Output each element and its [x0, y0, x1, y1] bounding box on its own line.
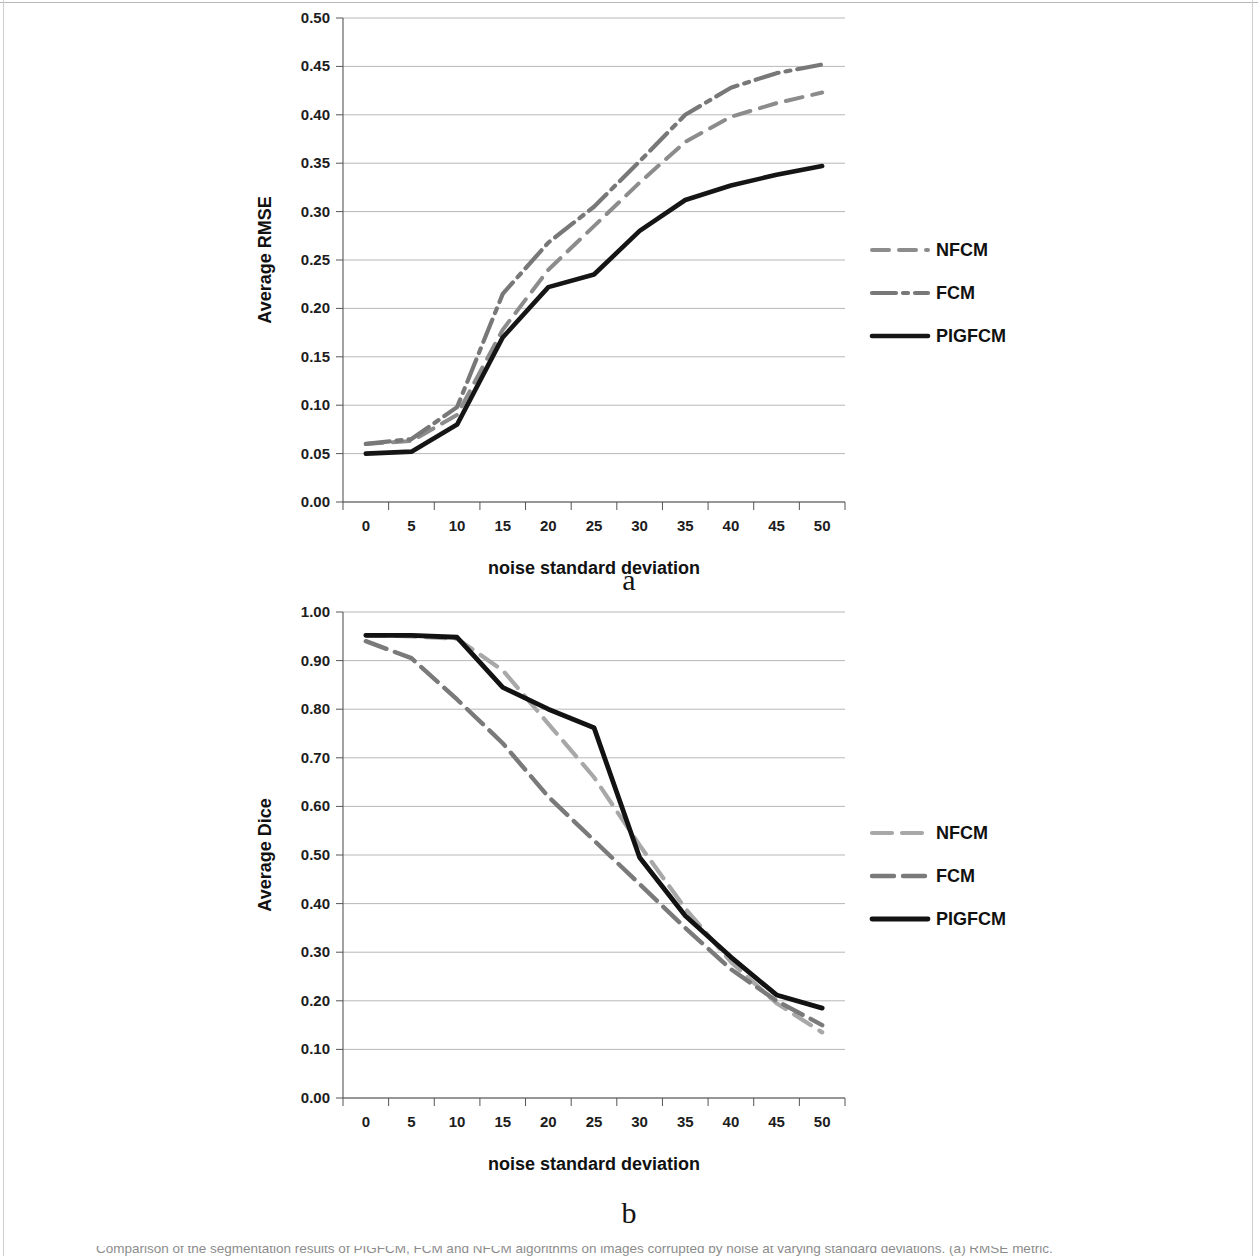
- x-tick-label: 35: [677, 517, 694, 534]
- y-tick-label: 0.45: [301, 57, 330, 74]
- y-tick-label: 0.40: [301, 106, 330, 123]
- x-tick-label: 10: [449, 517, 466, 534]
- y-tick-label: 0.10: [301, 1040, 330, 1057]
- y-tick-label: 0.00: [301, 1089, 330, 1106]
- x-tick-label: 40: [723, 1113, 740, 1130]
- y-tick-label: 0.70: [301, 749, 330, 766]
- legend-label-fcm: FCM: [936, 283, 975, 303]
- y-tick-label: 0.40: [301, 895, 330, 912]
- legend-label-nfcm: NFCM: [936, 240, 988, 260]
- y-tick-label: 1.00: [301, 603, 330, 620]
- series-line-fcm: [366, 641, 822, 1025]
- y-tick-label: 0.30: [301, 203, 330, 220]
- y-tick-label: 0.20: [301, 992, 330, 1009]
- figure-caption-strip: Comparison of the segmentation results o…: [0, 1246, 1258, 1256]
- legend-label-pigfcm: PIGFCM: [936, 909, 1006, 929]
- x-tick-label: 35: [677, 1113, 694, 1130]
- x-tick-label: 5: [407, 1113, 415, 1130]
- series-line-nfcm: [366, 93, 822, 444]
- x-tick-label: 30: [631, 1113, 648, 1130]
- x-tick-label: 0: [362, 1113, 370, 1130]
- dice-line-chart: 0.000.100.200.300.400.500.600.700.800.90…: [0, 590, 1258, 1210]
- y-tick-label: 0.10: [301, 396, 330, 413]
- x-tick-label: 30: [631, 517, 648, 534]
- y-tick-label: 0.60: [301, 797, 330, 814]
- x-tick-label: 15: [494, 517, 511, 534]
- chart-panel-a: 0.000.050.100.150.200.250.300.350.400.45…: [0, 0, 1258, 600]
- legend-label-nfcm: NFCM: [936, 823, 988, 843]
- x-tick-label: 5: [407, 517, 415, 534]
- series-line-nfcm: [366, 635, 822, 1032]
- x-tick-label: 0: [362, 517, 370, 534]
- legend-label-fcm: FCM: [936, 866, 975, 886]
- y-tick-label: 0.20: [301, 299, 330, 316]
- legend-label-pigfcm: PIGFCM: [936, 326, 1006, 346]
- y-tick-label: 0.05: [301, 445, 330, 462]
- y-tick-label: 0.35: [301, 154, 330, 171]
- x-tick-label: 50: [814, 517, 831, 534]
- x-tick-label: 45: [768, 1113, 785, 1130]
- y-tick-label: 0.50: [301, 846, 330, 863]
- x-tick-label: 25: [586, 1113, 603, 1130]
- x-tick-label: 10: [449, 1113, 466, 1130]
- y-tick-label: 0.50: [301, 9, 330, 26]
- x-tick-label: 45: [768, 517, 785, 534]
- x-tick-label: 40: [723, 517, 740, 534]
- x-tick-label: 25: [586, 517, 603, 534]
- subplot-label-b: b: [0, 1196, 1258, 1230]
- figure-container: 0.000.050.100.150.200.250.300.350.400.45…: [0, 0, 1258, 1256]
- y-tick-label: 0.90: [301, 652, 330, 669]
- x-tick-label: 50: [814, 1113, 831, 1130]
- x-tick-label: 20: [540, 1113, 557, 1130]
- y-tick-label: 0.15: [301, 348, 330, 365]
- chart-panel-b: 0.000.100.200.300.400.500.600.700.800.90…: [0, 590, 1258, 1210]
- figure-caption: Comparison of the segmentation results o…: [96, 1246, 1196, 1256]
- y-tick-label: 0.25: [301, 251, 330, 268]
- y-tick-label: 0.80: [301, 700, 330, 717]
- x-axis-title: noise standard deviation: [488, 1154, 700, 1174]
- x-tick-label: 20: [540, 517, 557, 534]
- y-axis-title: Average Dice: [255, 798, 275, 911]
- rmse-line-chart: 0.000.050.100.150.200.250.300.350.400.45…: [0, 0, 1258, 600]
- y-tick-label: 0.00: [301, 493, 330, 510]
- y-tick-label: 0.30: [301, 943, 330, 960]
- series-line-fcm: [366, 64, 822, 443]
- x-tick-label: 15: [494, 1113, 511, 1130]
- y-axis-title: Average RMSE: [255, 196, 275, 323]
